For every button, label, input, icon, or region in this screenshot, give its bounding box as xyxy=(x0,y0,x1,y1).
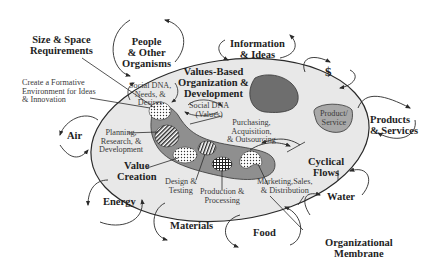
size-space-label: Size & Space Requirements xyxy=(30,34,93,56)
value-creation-label: Value Creation xyxy=(117,160,156,182)
social-dna-needs-label: Social DNA, Needs, & Desires xyxy=(129,82,171,108)
production-label: Production & Processing xyxy=(200,188,244,205)
information-label: Information & Ideas xyxy=(230,38,285,60)
products-services-label: Products & Services xyxy=(370,114,418,136)
dollar-label: $ xyxy=(325,65,332,79)
values-based-label: Values-Based Organization & Development xyxy=(178,66,249,99)
membrane-label: Organizational Membrane xyxy=(325,237,393,259)
cyclical-flows-label: Cyclical Flows xyxy=(308,156,344,178)
design-testing-label: Design & Testing xyxy=(165,178,197,195)
diagonal-blob xyxy=(155,125,179,147)
materials-label: Materials xyxy=(170,220,213,231)
food-label: Food xyxy=(253,227,276,238)
striped-blob xyxy=(198,141,216,155)
grid-blob xyxy=(212,157,232,171)
water-label: Water xyxy=(327,191,355,202)
air-label: Air xyxy=(67,130,82,141)
formative-environment-label: Create a Formative Environment for Ideas… xyxy=(22,79,96,105)
people-label: People & Other Organisms xyxy=(122,36,171,69)
energy-label: Energy xyxy=(103,196,136,207)
purchasing-label: Purchasing, Acquisition, & Outsourcing xyxy=(227,119,276,145)
planning-label: Planning, Research, & Development xyxy=(99,129,143,155)
dotted-blob-design xyxy=(173,147,197,163)
marketing-label: Marketing,Sales, & Distribution xyxy=(257,178,312,195)
product-service-label: Product/ Service xyxy=(320,110,348,127)
social-dna-values-label: Social DNA (Values) xyxy=(189,102,229,119)
